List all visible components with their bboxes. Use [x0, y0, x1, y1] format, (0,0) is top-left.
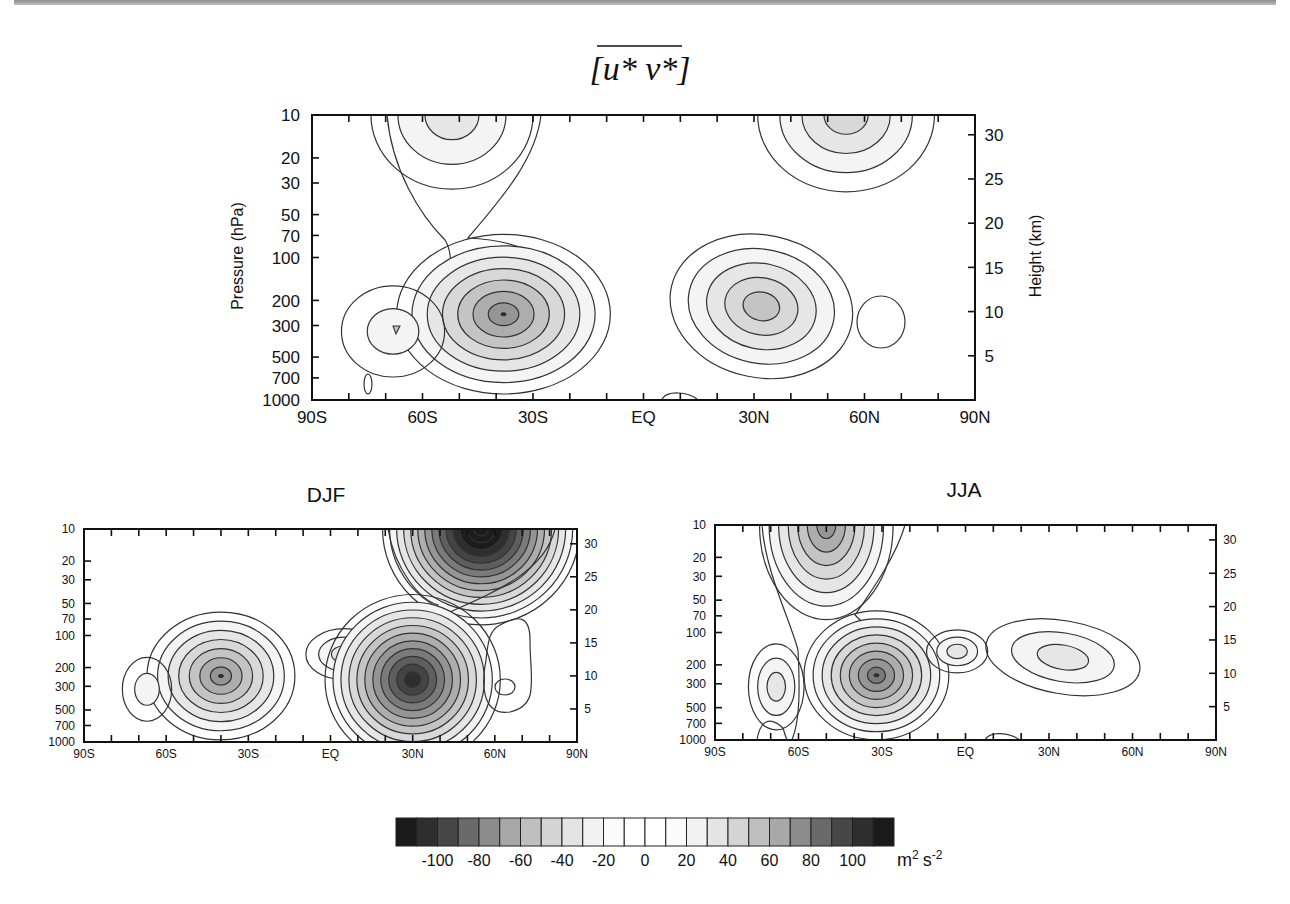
y-tick-label-pressure: 1000: [679, 733, 706, 747]
colorbar-swatch: [583, 818, 604, 846]
colorbar-label: 40: [719, 852, 737, 869]
y-tick-label-height: 30: [1223, 533, 1237, 547]
y-tick-label-pressure: 30: [281, 174, 300, 193]
panel-annual: 90S60S30SEQ30N60N90N10203050701002003005…: [262, 38, 1003, 427]
y-tick-label-pressure: 500: [55, 703, 75, 717]
colorbar-swatch: [873, 818, 894, 846]
y-tick-label-pressure: 10: [281, 106, 300, 125]
y-tick-label-pressure: 50: [62, 597, 76, 611]
y-tick-label-pressure: 200: [272, 292, 300, 311]
colorbar-swatch: [604, 818, 625, 846]
contour-field: [341, 38, 934, 399]
x-tick-label: EQ: [957, 745, 974, 759]
y-tick-label-pressure: 700: [686, 717, 706, 731]
contour-line: [767, 672, 786, 701]
y-tick-label-pressure: 30: [693, 570, 707, 584]
colorbar-swatch: [562, 818, 583, 846]
y-tick-label-pressure: 300: [686, 677, 706, 691]
y-tick-label-pressure: 100: [272, 249, 300, 268]
contour-line: [947, 644, 967, 658]
y-tick-label-height: 20: [1223, 600, 1237, 614]
x-tick-label: 60N: [484, 747, 506, 761]
colorbar-swatch: [790, 818, 811, 846]
contour-field: [122, 433, 579, 765]
x-tick-label: EQ: [322, 747, 339, 761]
y-tick-label-pressure: 30: [62, 573, 76, 587]
y-tick-label-pressure: 10: [62, 522, 76, 536]
y-tick-label-pressure: 20: [693, 551, 707, 565]
y-tick-label-height: 15: [1223, 633, 1237, 647]
colorbar-label: -100: [421, 852, 453, 869]
panel-title-djf: DJF: [307, 483, 346, 506]
y-tick-label-pressure: 70: [281, 227, 300, 246]
contour-line: [367, 309, 419, 355]
panel-title-jja: JJA: [946, 478, 981, 501]
y-tick-label-height: 5: [985, 347, 994, 366]
y-tick-label-pressure: 50: [281, 206, 300, 225]
y-tick-label-pressure: 1000: [48, 735, 75, 749]
colorbar-swatch: [396, 818, 417, 846]
x-tick-label: 90S: [73, 747, 94, 761]
y-tick-label-pressure: 100: [55, 629, 75, 643]
colorbar-swatch: [707, 818, 728, 846]
colorbar-swatch: [417, 818, 438, 846]
y-axis-label-pressure: Pressure (hPa): [229, 202, 246, 310]
x-tick-label: 60N: [1121, 745, 1143, 759]
colorbar-swatch: [438, 818, 459, 846]
contour-line: [405, 672, 421, 687]
contour-field: [748, 430, 1146, 740]
colorbar: -100-80-60-40-20020406080100m2s-2: [396, 818, 943, 870]
colorbar-unit: m2s-2: [897, 848, 943, 870]
y-tick-label-height: 15: [985, 259, 1004, 278]
x-tick-label: 90S: [297, 408, 327, 427]
colorbar-label: -80: [467, 852, 490, 869]
x-tick-label: 30N: [402, 747, 424, 761]
y-tick-label-pressure: 100: [686, 626, 706, 640]
colorbar-swatch: [770, 818, 791, 846]
y-tick-label-height: 30: [584, 537, 598, 551]
y-axis-label-height: Height (km): [1027, 215, 1044, 298]
colorbar-label: 80: [802, 852, 820, 869]
colorbar-swatch: [521, 818, 542, 846]
colorbar-label: -20: [592, 852, 615, 869]
x-tick-label: 90S: [704, 745, 725, 759]
y-tick-label-height: 20: [985, 214, 1004, 233]
colorbar-label: -40: [550, 852, 573, 869]
colorbar-swatch: [832, 818, 853, 846]
x-tick-label: 60N: [849, 408, 880, 427]
colorbar-label: -60: [509, 852, 532, 869]
x-tick-label: 60S: [407, 408, 437, 427]
main-title: [u* v*]: [589, 46, 690, 87]
y-tick-label-pressure: 10: [693, 518, 707, 532]
colorbar-swatch: [666, 818, 687, 846]
colorbar-swatch: [458, 818, 479, 846]
x-tick-label: 90N: [959, 408, 990, 427]
x-tick-label: 30N: [1038, 745, 1060, 759]
colorbar-swatch: [541, 818, 562, 846]
colorbar-swatch: [749, 818, 770, 846]
colorbar-swatch: [853, 818, 874, 846]
colorbar-swatch: [624, 818, 645, 846]
y-tick-label-height: 25: [584, 570, 598, 584]
y-tick-label-pressure: 200: [686, 658, 706, 672]
x-tick-label: 30S: [238, 747, 259, 761]
y-tick-label-height: 25: [985, 170, 1004, 189]
y-tick-label-pressure: 300: [55, 680, 75, 694]
figure-canvas: [u* v*] 90S60S30SEQ30N60N90N102030507010…: [0, 0, 1290, 904]
x-tick-label: 90N: [566, 747, 588, 761]
colorbar-label: 20: [678, 852, 696, 869]
y-tick-label-pressure: 20: [62, 554, 76, 568]
x-tick-label: 30N: [738, 408, 769, 427]
y-tick-label-height: 30: [985, 126, 1004, 145]
y-tick-label-height: 10: [584, 669, 598, 683]
colorbar-swatch: [645, 818, 666, 846]
y-tick-label-pressure: 1000: [262, 391, 300, 410]
y-tick-label-pressure: 300: [272, 317, 300, 336]
colorbar-swatch: [687, 818, 708, 846]
x-tick-label: 60S: [788, 745, 809, 759]
y-tick-label-height: 20: [584, 603, 598, 617]
main-title-text: [u* v*]: [589, 50, 690, 87]
x-tick-label: 30S: [871, 745, 892, 759]
colorbar-swatch: [479, 818, 500, 846]
y-tick-label-pressure: 20: [281, 149, 300, 168]
